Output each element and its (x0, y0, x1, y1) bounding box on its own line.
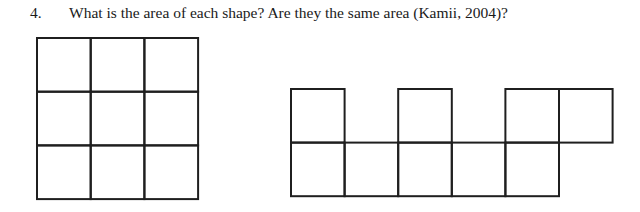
grid-cell (144, 145, 198, 199)
grid-cell (37, 38, 91, 92)
shape-cell (291, 89, 345, 143)
grid-cell (91, 145, 145, 199)
shape-cell (452, 143, 506, 197)
grid-cell (37, 145, 91, 199)
grid-cell (144, 38, 198, 92)
figures (0, 0, 640, 212)
grid-cell (91, 92, 145, 146)
shape-cell (398, 143, 452, 197)
shape-cell (345, 143, 399, 197)
grid-cell (144, 92, 198, 146)
irregular-shape (291, 89, 613, 196)
square-grid-shape (37, 38, 198, 199)
shape-cell (559, 89, 613, 143)
grid-cell (37, 92, 91, 146)
shape-cell (398, 89, 452, 143)
shape-cell (291, 143, 345, 197)
shape-cell (505, 143, 559, 197)
grid-cell (91, 38, 145, 92)
shape-cell (505, 89, 559, 143)
